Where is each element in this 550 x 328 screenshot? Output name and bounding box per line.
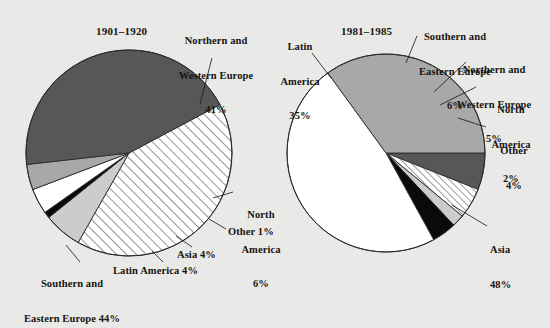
left-see-line2: Eastern Europe 44% xyxy=(6,313,138,325)
left-nwe-line2: Western Europe xyxy=(160,70,272,82)
right-asia-line2: 48% xyxy=(490,279,538,291)
right-la-line2: America xyxy=(272,76,328,88)
left-label-southern-eastern-europe: Southern and Eastern Europe 44% xyxy=(6,255,138,328)
right-na-line1: North xyxy=(481,104,541,116)
right-label-asia: Asia 48% xyxy=(490,221,538,313)
left-see-line1: Southern and xyxy=(6,278,138,290)
right-la-line3: 35% xyxy=(272,110,328,122)
right-label-other: Other 4% xyxy=(490,122,538,214)
left-label-north-america: North America 6% xyxy=(233,186,289,313)
leader-line-left-other xyxy=(209,219,226,229)
left-nwe-line1: Northern and xyxy=(160,35,272,47)
leader-line-left-latin xyxy=(152,251,163,262)
right-other-line2: 4% xyxy=(490,180,538,192)
left-label-other: Other 1% xyxy=(228,226,288,238)
left-na-line1: North xyxy=(233,209,289,221)
left-label-northern-western-europe: Northern and Western Europe 41% xyxy=(160,12,272,139)
right-la-line1: Latin xyxy=(272,41,328,53)
right-nwe-line1: Northern and xyxy=(441,64,547,76)
right-label-latin-america: Latin America 35% xyxy=(272,18,328,145)
left-label-asia: Asia 4% xyxy=(177,249,237,261)
right-asia-line1: Asia xyxy=(490,244,538,256)
left-nwe-line3: 41% xyxy=(160,104,272,116)
left-na-line3: 6% xyxy=(233,278,289,290)
left-na-line2: America xyxy=(233,244,289,256)
right-other-line1: Other xyxy=(490,145,538,157)
